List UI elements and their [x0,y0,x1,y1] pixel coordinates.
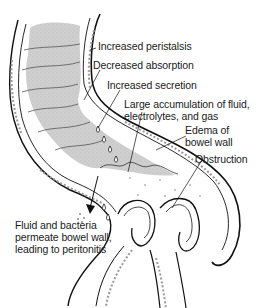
obstruction-loops [96,199,199,308]
lumen-specks [129,177,200,196]
label-large-accumulation-line2: electrolytes, and gas [124,110,218,122]
bowel-obstruction-diagram: Increased peristalsis Decreased absorpti… [0,0,262,308]
label-peritonitis-line2: permeate bowel wall, [15,231,112,243]
label-decreased-absorption: Decreased absorption [93,59,194,71]
label-peritonitis-line1: Fluid and bacteria [15,219,97,231]
label-large-accumulation-line1: Large accumulation of fluid, [124,98,250,110]
label-peritonitis-line3: leading to peritonitis [15,243,106,255]
permeation-arrow [77,176,98,223]
label-edema-line2: bowel wall [185,136,232,148]
label-increased-peristalsis: Increased peristalsis [98,40,192,52]
label-edema-line1: Edema of [185,124,229,136]
label-obstruction: Obstruction [195,153,248,165]
label-increased-secretion: Increased secretion [107,79,197,91]
